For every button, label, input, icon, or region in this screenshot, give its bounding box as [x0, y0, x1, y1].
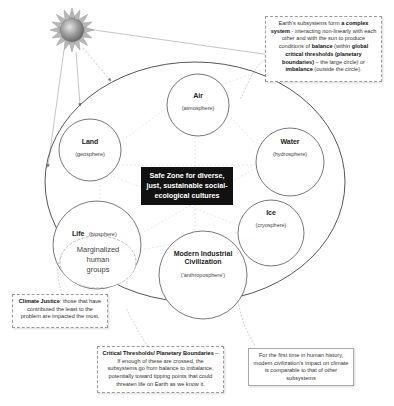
- civilization-title: Modern Industrial: [163, 250, 243, 258]
- air-subtitle: (atmosphere): [168, 105, 228, 111]
- marginalized-line: Marginalized: [68, 245, 128, 255]
- life-subtitle: (biosphere): [89, 231, 117, 237]
- land-title: Land: [60, 138, 120, 146]
- complex-system-note: Earth's subsystems form a complex system…: [265, 16, 382, 82]
- note-bold: Climate Justice: [19, 298, 60, 304]
- civilization-title: Civilization: [163, 258, 243, 266]
- note-bold: imbalance: [285, 66, 312, 72]
- ice-label: Ice (cryosphere): [241, 209, 301, 228]
- note-text: Earth's subsystems form: [279, 20, 342, 26]
- note-bold: Critical Thresholds/ Planetary Boundarie…: [103, 350, 214, 356]
- first-time-note: For the first time in human history, mod…: [248, 348, 354, 386]
- air-label: Air (atmosphere): [168, 92, 228, 111]
- water-label: Water (hydrosphere): [260, 138, 320, 157]
- climate-justice-note: Climate Justice: those that have contrib…: [12, 294, 108, 328]
- marginalized-groups-label: Marginalized human groups: [68, 245, 128, 274]
- land-label: Land (geosphere): [60, 138, 120, 157]
- air-title: Air: [168, 92, 228, 100]
- note-text: For the first time in human history, mod…: [254, 352, 349, 381]
- thresholds-note: Critical Thresholds/ Planetary Boundarie…: [97, 346, 224, 393]
- civilization-subtitle: ('anthroposphere'): [163, 272, 243, 278]
- ice-subtitle: (cryosphere): [241, 222, 301, 228]
- note-text: (within: [333, 43, 352, 49]
- sun-icon: [50, 8, 94, 52]
- life-title: Life: [72, 230, 84, 237]
- note-text: (outside the circle).: [313, 66, 362, 72]
- ice-title: Ice: [241, 209, 301, 217]
- safe-zone-line: ecological cultures: [144, 191, 230, 201]
- safe-zone-line: Safe Zone for diverse,: [144, 171, 230, 181]
- life-label: Life (biosphere): [72, 222, 132, 240]
- safe-zone-line: just, sustainable social-: [144, 181, 230, 191]
- note-bold: balance: [312, 43, 333, 49]
- water-subtitle: (hydrosphere): [260, 151, 320, 157]
- marginalized-line: groups: [68, 265, 128, 275]
- note-text: – the large circle) or: [314, 59, 365, 65]
- water-title: Water: [260, 138, 320, 146]
- safe-zone-box: Safe Zone for diverse, just, sustainable…: [141, 167, 233, 205]
- marginalized-line: human: [68, 255, 128, 265]
- land-subtitle: (geosphere): [60, 151, 120, 157]
- civilization-label: Modern Industrial Civilization ('anthrop…: [163, 250, 243, 278]
